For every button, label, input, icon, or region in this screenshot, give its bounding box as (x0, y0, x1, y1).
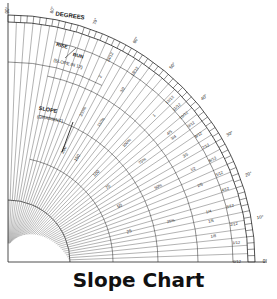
degree-label: 60° (132, 36, 140, 45)
degree-tick (190, 102, 195, 107)
degree-label: 90° (5, 6, 10, 13)
slope-in-12-label: 4/12 (221, 185, 231, 192)
radial-line (70, 254, 248, 260)
pitch-fraction-label: 1/2 (189, 165, 197, 172)
percent-gradient-label: 150% (96, 116, 106, 128)
degree-tick (117, 42, 120, 48)
slope-in-12-label: 24/12 (106, 51, 115, 63)
percent-gradient-label: 100% (121, 137, 132, 148)
radial-line-inner (11, 201, 18, 242)
radial-line (44, 68, 149, 212)
radial-line-inner (59, 244, 67, 247)
degree-tick (173, 83, 178, 88)
degree-tick (100, 34, 103, 40)
degree-tick (219, 144, 225, 147)
radial-line (58, 121, 202, 226)
degree-tick (246, 230, 253, 231)
degree-tick (232, 173, 239, 176)
degree-tick (164, 74, 169, 79)
percent-gradient-label: 25% (166, 217, 175, 224)
degree-label: 20° (244, 171, 252, 178)
degree-tick (198, 112, 204, 116)
degree-tick (76, 25, 78, 32)
degree-tick (154, 66, 158, 72)
degree-tick (213, 133, 219, 137)
pitch-fraction-label: 2 (97, 74, 103, 79)
slope-in-12-label: 5/12 (215, 169, 225, 177)
radial-line (12, 23, 24, 201)
radial-line (61, 135, 212, 229)
radial-line (14, 23, 33, 200)
degree-tick (178, 87, 183, 92)
degree-tick (144, 58, 148, 64)
degree-tick (243, 211, 250, 212)
degree-tick (128, 48, 132, 54)
pitch-fraction-label: 1 (152, 112, 158, 118)
radial-line-inner (60, 246, 67, 248)
radial-line (33, 43, 105, 206)
degree-tick (139, 55, 143, 61)
radial-line (70, 245, 248, 257)
radial-line (51, 89, 175, 217)
radial-line-inner (65, 252, 70, 253)
degree-tick (241, 204, 248, 206)
degree-tick (58, 20, 59, 27)
radial-line-inner (42, 225, 57, 237)
degree-tick (222, 150, 228, 153)
pitch-fraction-label: 1/5 (208, 218, 215, 224)
degree-tick (149, 62, 153, 68)
degree-tick (133, 51, 137, 57)
ratio-label: 25 (126, 228, 133, 234)
degree-tick (27, 16, 28, 23)
slope-in-12-label: 7/12 (201, 142, 211, 151)
pitch-fraction-label: 3/4 (170, 133, 178, 141)
degree-tick (111, 39, 114, 45)
degree-tick (209, 127, 215, 131)
degree-label: 0° (263, 259, 268, 264)
degree-tick (123, 45, 126, 51)
degree-label: 10° (256, 214, 264, 220)
pitch-fraction-label: 1/8 (210, 233, 217, 239)
ratio-label: 100 (92, 169, 101, 178)
radial-line (53, 95, 181, 219)
degree-tick (247, 236, 254, 237)
degree-tick (46, 18, 47, 25)
degree-tick (238, 192, 245, 194)
degree-tick (230, 167, 236, 170)
degrees-label: DEGREES (55, 11, 85, 21)
degree-tick (202, 117, 208, 121)
slope-in-12-label: 18/12 (130, 65, 140, 77)
degree-tick (52, 19, 53, 26)
degree-tick (82, 27, 84, 34)
percent-gradient-label: 50% (153, 182, 163, 190)
rise-label: RISE (56, 41, 69, 50)
radial-line (59, 128, 207, 228)
radial-line-inner (34, 217, 51, 235)
degree-tick (247, 243, 254, 244)
degree-tick (39, 17, 40, 24)
radial-line (70, 237, 247, 256)
radial-line-inner (14, 202, 24, 239)
degree-tick (240, 198, 247, 200)
degree-tick (244, 217, 251, 218)
degree-tick (88, 29, 90, 36)
radial-line-inner (17, 204, 30, 237)
radial-line-inner (54, 238, 65, 243)
percent-gradient-label: 75% (137, 156, 147, 165)
degree-tick (245, 223, 252, 224)
slope-in-12-label: 3/12 (226, 202, 236, 209)
radial-line-inner (35, 218, 51, 234)
radial-line-inner (15, 203, 26, 239)
slope-in-12-label: 9/12 (186, 119, 196, 128)
slope-in-12-label: 0/12 (233, 259, 242, 264)
degree-tick (106, 36, 109, 42)
degree-tick (169, 78, 174, 83)
degree-tick (33, 16, 34, 23)
radial-line (43, 63, 143, 211)
ratio-label: 200 (60, 145, 68, 154)
degree-label: 50° (168, 61, 176, 70)
degree-tick (234, 180, 241, 182)
radial-line-inner (12, 201, 20, 241)
degree-label: 30° (225, 130, 234, 138)
radial-line (65, 164, 228, 236)
